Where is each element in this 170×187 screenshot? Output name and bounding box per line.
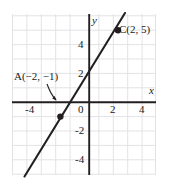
point-label-a: A(−2, −1) [14,71,58,82]
x-tick-label-4: 4 [139,104,145,115]
x-axis-label: x [149,85,154,96]
coordinate-plane-figure: x y -4 0 2 4 4 2 -2 -4 A(−2, −1) C(2, 5) [0,0,170,187]
x-tick-label-2: 2 [110,104,116,115]
y-tick-label-2: 2 [78,68,84,79]
point-label-c: C(2, 5) [119,24,150,35]
y-axis-label: y [92,15,97,26]
data-point-a [57,113,63,119]
y-tick-label-minus4: -4 [75,154,84,165]
x-tick-label-0: 0 [78,104,84,115]
x-tick-label-minus4: -4 [25,104,34,115]
y-tick-label-minus2: -2 [75,125,84,136]
plot-background [12,14,156,175]
y-tick-label-4: 4 [78,39,84,50]
